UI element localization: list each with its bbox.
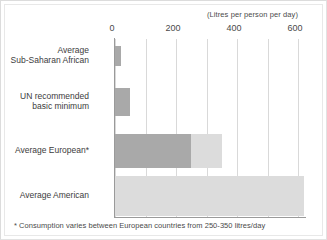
category-label-line: Average European* [0,145,89,156]
category-label: Average European* [0,145,89,156]
category-label-line: basic minimum [0,101,89,112]
category-label: UN recommendedbasic minimum [0,91,89,112]
bar-row [115,176,304,216]
plot-area [115,39,305,217]
chart-footnote: * Consumption varies between European co… [14,221,265,230]
bar-segment-lower [115,46,121,66]
x-axis-line [114,217,306,218]
bar-segment-upper [115,176,304,216]
category-label-line: Average [0,45,89,56]
bar-row [115,134,222,168]
chart-figure: (Litres per person per day) 0200400600 A… [0,0,327,240]
bar-segment-lower [115,88,130,116]
category-label: Average American [0,190,89,201]
bar-segment-lower [115,134,191,168]
x-tick-0: 0 [109,23,114,33]
x-tick-600: 600 [287,23,302,33]
x-tick-200: 200 [165,23,180,33]
category-label-line: Average American [0,190,89,201]
category-label-line: Sub-Saharan African [0,55,89,66]
category-label: AverageSub-Saharan African [0,45,89,66]
bar-row [115,88,130,116]
bar-row [115,46,121,66]
axis-unit-title: (Litres per person per day) [5,10,298,19]
x-tick-400: 400 [226,23,241,33]
chart-frame: (Litres per person per day) 0200400600 A… [4,4,323,236]
category-label-line: UN recommended [0,91,89,102]
